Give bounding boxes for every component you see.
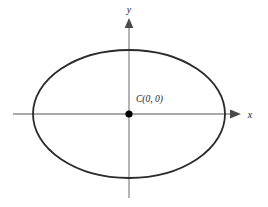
- y-axis-arrowhead-icon: [125, 18, 134, 28]
- figure-svg: C(0, 0) x y: [0, 0, 268, 207]
- ellipse-figure: C(0, 0) x y: [0, 0, 268, 207]
- center-point-marker: [125, 110, 132, 117]
- center-point-label: C(0, 0): [136, 94, 163, 105]
- x-axis-label: x: [247, 109, 253, 120]
- x-axis-arrowhead-icon: [230, 110, 241, 119]
- y-axis-label: y: [126, 4, 132, 15]
